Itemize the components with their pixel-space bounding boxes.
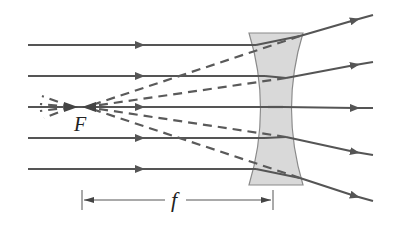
diverging-lens <box>249 33 303 185</box>
focal-length-label: f <box>171 187 180 212</box>
ray-diagram: F f <box>0 0 399 231</box>
focal-length-dimension <box>82 190 273 210</box>
focal-point-label: F <box>73 113 87 135</box>
